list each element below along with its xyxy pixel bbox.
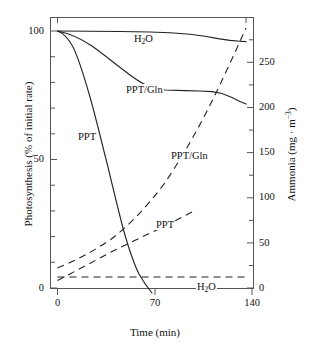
x-tick-140: 140	[232, 297, 272, 308]
curve-ppt-gln-ammonia	[58, 28, 247, 268]
x-bottom-major-ticks	[58, 288, 253, 295]
y-right-tick-250: 250	[259, 56, 299, 67]
label-h2o-ammonia-h: H	[197, 281, 205, 292]
x-axis-title: Time (min)	[0, 326, 310, 338]
y-right-tick-100: 100	[259, 191, 299, 202]
y-left-major-ticks	[51, 31, 58, 288]
y-right-tick-0: 0	[259, 282, 299, 293]
x-tick-0: 0	[38, 297, 78, 308]
y-left-tick-0: 0	[4, 282, 44, 293]
label-h2o-ammonia: H2O	[196, 281, 217, 295]
y-right-tick-200: 200	[259, 101, 299, 112]
caption-clipped-strip	[0, 342, 310, 350]
y-right-tick-150: 150	[259, 146, 299, 157]
y-right-tick-50: 50	[259, 237, 299, 248]
x-top-ticks	[58, 18, 247, 24]
label-h2o-photosynthesis: H2O	[133, 33, 154, 47]
label-h2o-photosynthesis-h: H	[134, 33, 142, 44]
y-left-tick-100: 100	[4, 25, 44, 36]
label-ppt-gln-ammonia: PPT/Gln	[170, 150, 209, 161]
curve-ppt-photosynthesis	[58, 31, 153, 293]
label-ppt-ammonia: PPT	[155, 219, 175, 230]
plot-frame	[51, 18, 254, 289]
label-h2o-ammonia-o: O	[208, 281, 216, 292]
x-tick-70: 70	[135, 297, 175, 308]
y-axis-right-title-exponent: −3	[284, 111, 293, 119]
figure-container: Photosynthesis (% of initial rate) Ammon…	[0, 0, 310, 350]
label-ppt-photosynthesis: PPT	[77, 131, 97, 142]
y-left-tick-50: 50	[4, 153, 44, 164]
label-ppt-gln-photosynthesis: PPT/Gln	[125, 84, 164, 95]
y-axis-right-title-main: Ammonia (mg · m	[285, 119, 297, 201]
curve-ppt-ammonia	[58, 210, 197, 281]
label-h2o-photosynthesis-o: O	[145, 33, 153, 44]
